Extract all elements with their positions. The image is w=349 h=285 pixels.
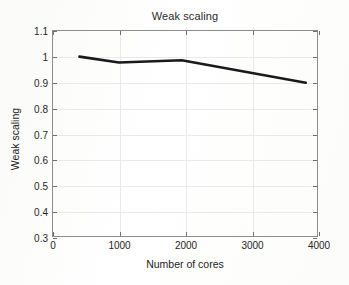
y-axis-tick-label: 0.4 [34,207,48,218]
x-axis-tick [319,232,320,236]
y-axis-tick-label: 0.9 [34,77,48,88]
x-axis-tick-label: 2000 [175,240,197,251]
x-axis-title: Number of cores [52,258,318,270]
y-axis-tick-label: 0.6 [34,155,48,166]
data-series-layer [53,31,317,236]
y-axis-tick [53,238,57,239]
y-axis-tick-label: 0.8 [34,103,48,114]
x-axis-tick-label: 3000 [241,240,263,251]
y-axis-tick-label: 0.7 [34,129,48,140]
y-axis-title: Weak scaling [9,79,21,199]
plot-area: 0.30.40.50.60.70.80.911.1010002000300040… [52,30,318,237]
y-axis-tick-label: 0.3 [34,233,48,244]
y-axis-tick [313,238,317,239]
figure-canvas: Weak scaling 0.30.40.50.60.70.80.911.101… [0,0,349,285]
chart-screenshot: Weak scaling 0.30.40.50.60.70.80.911.101… [0,0,349,285]
x-axis-tick-label: 1000 [108,240,130,251]
y-axis-tick-label: 0.5 [34,181,48,192]
x-axis-tick-label: 0 [50,240,56,251]
y-axis-tick-label: 1.1 [34,26,48,37]
x-axis-tick [319,31,320,35]
y-axis-tick-label: 1 [42,51,48,62]
x-axis-tick-label: 4000 [308,240,330,251]
line-series-weak-scaling [79,57,305,83]
chart-title: Weak scaling [52,10,318,22]
